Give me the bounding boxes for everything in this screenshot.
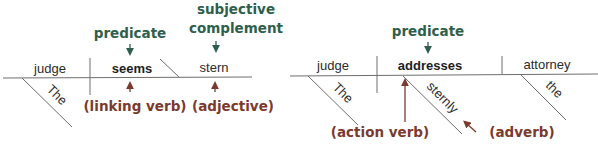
left-subject-word: judge — [33, 61, 66, 76]
right-adverb-arrow-icon — [466, 123, 476, 132]
right-adverb-label: (adverb) — [489, 124, 554, 140]
right-baseline — [290, 74, 598, 76]
right-diagram: judge addresses attorney The sternly the… — [290, 23, 598, 140]
sentence-diagrams: judge seems stern The predicate subjecti… — [0, 0, 598, 145]
left-subjective-label-line1: subjective — [197, 1, 275, 17]
left-adjective-label: (adjective) — [192, 98, 274, 114]
left-diagram: judge seems stern The predicate subjecti… — [3, 1, 284, 127]
left-predicate-label: predicate — [94, 25, 167, 41]
left-linking-verb-label: (linking verb) — [83, 98, 186, 114]
right-modifier-word-sternly: sternly — [424, 79, 462, 117]
right-action-verb-label: (action verb) — [331, 124, 429, 140]
right-modifier-line-the-object — [521, 75, 566, 120]
right-subject-word: judge — [316, 58, 349, 73]
left-verb-word: seems — [112, 61, 152, 76]
right-object-word: attorney — [524, 57, 571, 72]
right-predicate-label: predicate — [392, 23, 465, 39]
right-modifier-word-the-object: the — [543, 78, 566, 101]
left-complement-divider — [160, 59, 179, 77]
left-subjective-label-line2: complement — [189, 20, 284, 36]
right-verb-word: addresses — [398, 58, 462, 73]
left-complement-word: stern — [200, 60, 229, 75]
left-baseline — [3, 77, 252, 78]
